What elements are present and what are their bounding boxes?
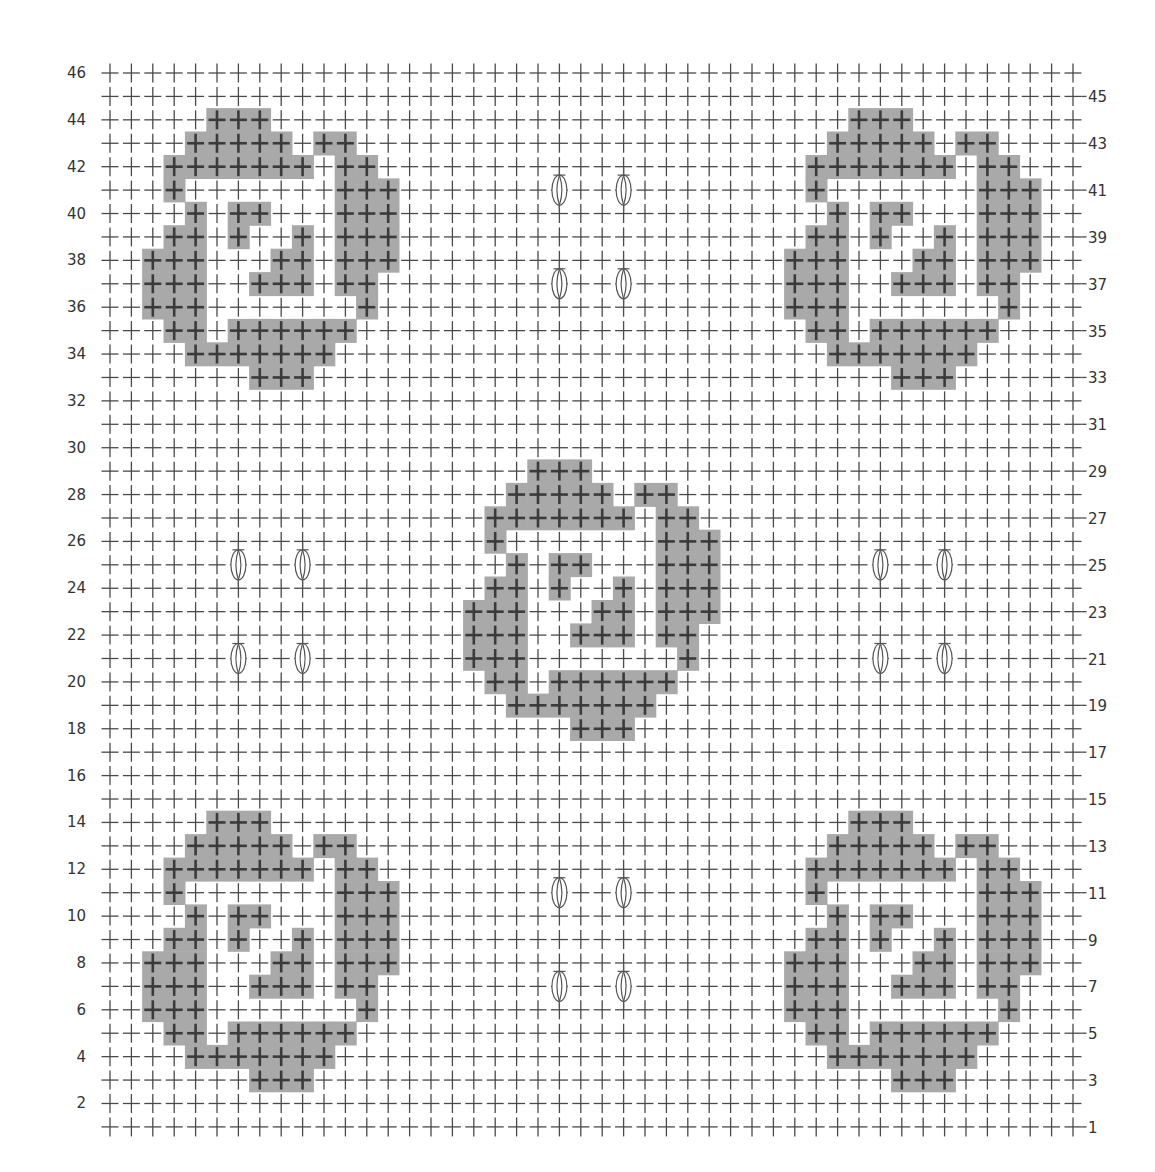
single-crochet-cross-icon bbox=[637, 1094, 654, 1113]
single-crochet-cross-icon bbox=[294, 134, 311, 153]
single-crochet-cross-icon bbox=[594, 1117, 611, 1136]
single-crochet-cross-icon bbox=[273, 415, 290, 434]
single-crochet-cross-icon bbox=[851, 64, 868, 83]
single-crochet-cross-icon bbox=[979, 766, 996, 785]
single-crochet-cross-icon bbox=[487, 930, 504, 949]
single-crochet-cross-icon bbox=[615, 462, 632, 481]
bobble-stitch-icon bbox=[615, 964, 632, 1008]
single-crochet-cross-icon bbox=[786, 626, 803, 645]
single-crochet-cross-icon bbox=[594, 438, 611, 457]
single-crochet-cross-icon bbox=[572, 87, 589, 106]
single-crochet-cross-icon bbox=[936, 110, 953, 129]
single-crochet-cross-icon bbox=[444, 274, 461, 293]
single-crochet-cross-icon bbox=[465, 462, 482, 481]
single-crochet-cross-icon bbox=[979, 579, 996, 598]
single-crochet-cross-icon bbox=[637, 953, 654, 972]
single-crochet-cross-icon bbox=[551, 87, 568, 106]
single-crochet-cross-icon bbox=[401, 298, 418, 317]
bobble-stitch-icon bbox=[615, 871, 632, 915]
single-crochet-cross-icon bbox=[423, 860, 440, 879]
single-crochet-cross-icon bbox=[551, 134, 568, 153]
single-crochet-cross-icon bbox=[872, 719, 889, 738]
single-crochet-cross-icon bbox=[979, 345, 996, 364]
single-crochet-cross-icon bbox=[316, 438, 333, 457]
single-crochet-cross-icon bbox=[551, 602, 568, 621]
single-crochet-cross-icon bbox=[1000, 87, 1017, 106]
single-crochet-cross-icon bbox=[786, 1094, 803, 1113]
single-crochet-cross-icon bbox=[273, 790, 290, 809]
single-crochet-cross-icon bbox=[744, 860, 761, 879]
single-crochet-cross-icon bbox=[508, 134, 525, 153]
single-crochet-cross-icon bbox=[166, 1071, 183, 1090]
single-crochet-cross-icon bbox=[701, 181, 718, 200]
single-crochet-cross-icon bbox=[123, 134, 140, 153]
single-crochet-cross-icon bbox=[808, 813, 825, 832]
single-crochet-cross-icon bbox=[744, 743, 761, 762]
single-crochet-cross-icon bbox=[380, 368, 397, 387]
single-crochet-cross-icon bbox=[102, 345, 119, 364]
single-crochet-cross-icon bbox=[786, 64, 803, 83]
single-crochet-cross-icon bbox=[273, 485, 290, 504]
single-crochet-cross-icon bbox=[102, 181, 119, 200]
single-crochet-cross-icon bbox=[1022, 532, 1039, 551]
single-crochet-cross-icon bbox=[123, 438, 140, 457]
single-crochet-cross-icon bbox=[444, 87, 461, 106]
single-crochet-cross-icon bbox=[444, 1071, 461, 1090]
single-crochet-cross-icon bbox=[144, 907, 161, 926]
single-crochet-cross-icon bbox=[744, 462, 761, 481]
single-crochet-cross-icon bbox=[187, 181, 204, 200]
single-crochet-cross-icon bbox=[551, 227, 568, 246]
single-crochet-cross-icon bbox=[294, 415, 311, 434]
single-crochet-cross-icon bbox=[444, 227, 461, 246]
single-crochet-cross-icon bbox=[722, 134, 739, 153]
single-crochet-cross-icon bbox=[123, 227, 140, 246]
row-label-right: 37 bbox=[1088, 276, 1107, 294]
row-label-left: 30 bbox=[67, 439, 86, 457]
single-crochet-cross-icon bbox=[187, 532, 204, 551]
single-crochet-cross-icon bbox=[401, 743, 418, 762]
single-crochet-cross-icon bbox=[251, 64, 268, 83]
single-crochet-cross-icon bbox=[102, 157, 119, 176]
single-crochet-cross-icon bbox=[701, 462, 718, 481]
single-crochet-cross-icon bbox=[1022, 110, 1039, 129]
single-crochet-cross-icon bbox=[209, 719, 226, 738]
single-crochet-cross-icon bbox=[530, 836, 547, 855]
single-crochet-cross-icon bbox=[144, 696, 161, 715]
single-crochet-cross-icon bbox=[465, 298, 482, 317]
single-crochet-cross-icon bbox=[465, 508, 482, 527]
single-crochet-cross-icon bbox=[1000, 64, 1017, 83]
row-label-left: 8 bbox=[76, 954, 86, 972]
single-crochet-cross-icon bbox=[551, 649, 568, 668]
single-crochet-cross-icon bbox=[423, 157, 440, 176]
single-crochet-cross-icon bbox=[209, 415, 226, 434]
single-crochet-cross-icon bbox=[572, 368, 589, 387]
single-crochet-cross-icon bbox=[893, 64, 910, 83]
single-crochet-cross-icon bbox=[658, 368, 675, 387]
single-crochet-cross-icon bbox=[1043, 719, 1060, 738]
single-crochet-cross-icon bbox=[572, 274, 589, 293]
single-crochet-cross-icon bbox=[551, 415, 568, 434]
single-crochet-cross-icon bbox=[209, 251, 226, 270]
single-crochet-cross-icon bbox=[358, 555, 375, 574]
single-crochet-cross-icon bbox=[679, 907, 696, 926]
single-crochet-cross-icon bbox=[487, 883, 504, 902]
single-crochet-cross-icon bbox=[872, 1071, 889, 1090]
single-crochet-cross-icon bbox=[1022, 1117, 1039, 1136]
single-crochet-cross-icon bbox=[530, 251, 547, 270]
single-crochet-cross-icon bbox=[637, 719, 654, 738]
single-crochet-cross-icon bbox=[358, 602, 375, 621]
single-crochet-cross-icon bbox=[979, 532, 996, 551]
single-crochet-cross-icon bbox=[851, 274, 868, 293]
single-crochet-cross-icon bbox=[936, 438, 953, 457]
single-crochet-cross-icon bbox=[423, 485, 440, 504]
single-crochet-cross-icon bbox=[1065, 860, 1082, 879]
single-crochet-cross-icon bbox=[358, 1094, 375, 1113]
single-crochet-cross-icon bbox=[722, 227, 739, 246]
row-label-left: 10 bbox=[67, 907, 86, 925]
single-crochet-cross-icon bbox=[102, 438, 119, 457]
single-crochet-cross-icon bbox=[679, 438, 696, 457]
single-crochet-cross-icon bbox=[380, 415, 397, 434]
single-crochet-cross-icon bbox=[979, 602, 996, 621]
single-crochet-cross-icon bbox=[829, 766, 846, 785]
single-crochet-cross-icon bbox=[1022, 743, 1039, 762]
